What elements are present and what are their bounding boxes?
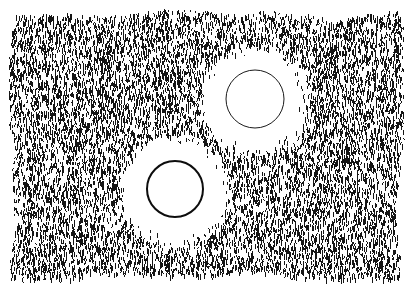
void-upper-right — [211, 55, 299, 143]
artboard — [0, 0, 412, 288]
void-lower-left-disc — [130, 144, 220, 234]
void-upper-right-disc — [211, 55, 299, 143]
stipple-illustration — [0, 0, 412, 288]
void-lower-left — [130, 144, 220, 234]
